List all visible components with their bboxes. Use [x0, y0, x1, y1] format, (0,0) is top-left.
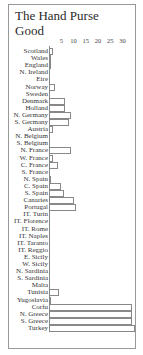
title-line-1: The Hand Purse — [15, 8, 133, 23]
chart-title: The Hand Purse Good — [15, 8, 133, 38]
x-tick-label: 5 — [60, 37, 63, 44]
x-tick-label: 20 — [95, 37, 102, 44]
x-tick-label: 15 — [83, 37, 90, 44]
category-label: Turkey — [28, 324, 48, 333]
x-tick-label: 30 — [119, 37, 126, 44]
x-tick-label: 10 — [70, 37, 77, 44]
bar-row: Turkey — [0, 324, 143, 333]
bar — [49, 325, 135, 332]
title-line-2: Good — [15, 23, 133, 38]
x-tick-label: 25 — [107, 37, 114, 44]
